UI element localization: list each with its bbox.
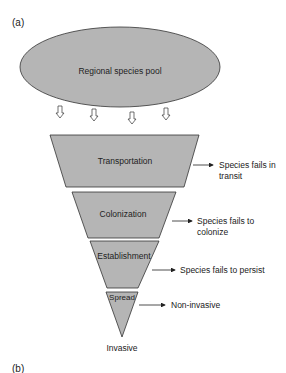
outcome-colonization-1: Species fails to <box>197 216 254 226</box>
panel-label-b: (b) <box>12 363 24 373</box>
panel-label-a: (a) <box>12 17 24 28</box>
stage-label-colonization: Colonization <box>100 209 147 219</box>
stage-establishment <box>90 241 159 288</box>
stage-label-transportation: Transportation <box>98 156 153 166</box>
pool-label: Regional species pool <box>78 66 161 76</box>
outcome-transportation-1: Species fails in <box>219 160 276 170</box>
invasion-funnel-diagram: (a) Regional species pool Transportation… <box>0 0 286 373</box>
outcome-establishment: Species fails to persist <box>180 265 265 275</box>
outcome-transportation-2: transit <box>219 171 243 181</box>
final-label-invasive: Invasive <box>106 343 137 353</box>
outcome-spread: Non-invasive <box>171 300 220 310</box>
outcome-colonization-2: colonize <box>197 227 228 237</box>
hollow-down-arrow-icon <box>56 106 170 124</box>
stage-label-spread: Spread <box>109 293 135 302</box>
stage-label-establishment: Establishment <box>97 251 151 261</box>
